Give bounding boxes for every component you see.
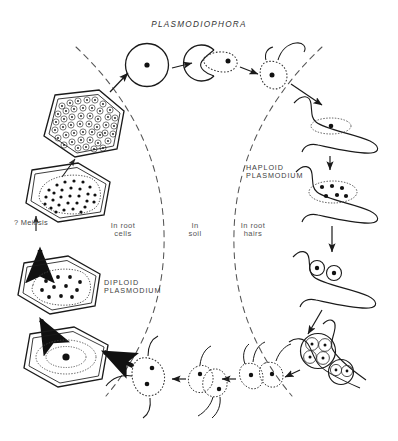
stage-diploid-plasmodium-cell bbox=[18, 256, 100, 314]
figure-title: PLASMODIOPHORA bbox=[0, 21, 398, 30]
nucleus-2 bbox=[332, 271, 336, 275]
nucleus bbox=[226, 59, 231, 64]
label-haploid-plasmodium: HAPLOID PLASMODIUM bbox=[246, 164, 322, 180]
resting-spores bbox=[52, 97, 118, 152]
arrow-binucleate-to-zoosporangia bbox=[308, 310, 322, 334]
nucleus-2 bbox=[145, 382, 150, 387]
stage-binucleate bbox=[293, 252, 376, 309]
stage-secondary-zoospores bbox=[239, 342, 291, 389]
flagellum-long bbox=[278, 43, 305, 60]
flagellum-short bbox=[265, 47, 273, 60]
flagellum-top bbox=[148, 336, 158, 356]
stage-resting-spore-cell bbox=[44, 90, 124, 157]
arrow-zoosporangia-to-zoospores bbox=[285, 370, 300, 377]
zone-label-in-soil: In soil bbox=[172, 222, 218, 238]
zoosporangium-cluster-small bbox=[329, 360, 354, 385]
stage-zoosporangia bbox=[289, 320, 366, 388]
nucleus-b bbox=[217, 387, 221, 391]
plasmodium-membrane bbox=[32, 269, 90, 305]
label-diploid-plasmodium: DIPLOID PLASMODIUM bbox=[104, 279, 178, 295]
zygote-body bbox=[132, 358, 165, 396]
flagellum-b bbox=[198, 397, 213, 416]
arrow-germinating-to-zoospore bbox=[240, 67, 258, 74]
nucleus bbox=[144, 62, 149, 67]
cell-wall-outer bbox=[18, 256, 100, 314]
flagellum-c bbox=[212, 397, 220, 418]
zone-label-in-root-cells: In root cells bbox=[88, 222, 158, 238]
stage-meiosis-cell bbox=[26, 163, 110, 222]
diploid-nucleus bbox=[62, 353, 69, 360]
cell-wall-inner bbox=[23, 261, 96, 311]
cell-wall-outer bbox=[26, 163, 110, 222]
label-meiosis: ? Meiosis bbox=[14, 219, 84, 227]
nucleus bbox=[329, 124, 334, 129]
arrow-spore-to-germinating bbox=[172, 63, 192, 68]
stage-zygote bbox=[106, 336, 165, 418]
nucleus bbox=[270, 372, 274, 376]
cell-wall-inner bbox=[31, 168, 106, 219]
root-hair-outline bbox=[293, 252, 376, 309]
nucleus bbox=[270, 73, 275, 78]
fusing-cell-b bbox=[203, 369, 227, 397]
zone-label-in-root-hairs: In root hairs bbox=[218, 222, 288, 238]
nucleus-1 bbox=[150, 366, 155, 371]
nuclei bbox=[320, 184, 348, 198]
flagellum-left bbox=[106, 375, 132, 386]
root-hair-outline bbox=[294, 97, 378, 153]
arrow-cell-to-resting-spore bbox=[110, 73, 128, 92]
flagellum-a bbox=[200, 346, 211, 365]
nuclei bbox=[40, 275, 82, 299]
flagellum bbox=[276, 344, 291, 361]
nucleus-a bbox=[198, 372, 202, 376]
zoospore-right bbox=[259, 344, 291, 387]
stage-fusing-zoospores bbox=[188, 346, 227, 418]
nucleus-1 bbox=[315, 266, 319, 270]
stage-infected-root-cell bbox=[24, 327, 108, 387]
nuclei bbox=[43, 179, 96, 213]
flagellum-bottom bbox=[143, 398, 150, 418]
nucleus bbox=[249, 373, 253, 377]
arrow-zygote-to-rootcell bbox=[104, 352, 133, 366]
fusing-cell-a bbox=[188, 365, 213, 392]
flagellum-2 bbox=[244, 344, 249, 364]
stage-root-hair-infection bbox=[294, 97, 378, 153]
stage-resting-spore bbox=[126, 44, 169, 87]
flagellum bbox=[253, 342, 265, 362]
stage-primary-zoospore bbox=[260, 43, 305, 89]
